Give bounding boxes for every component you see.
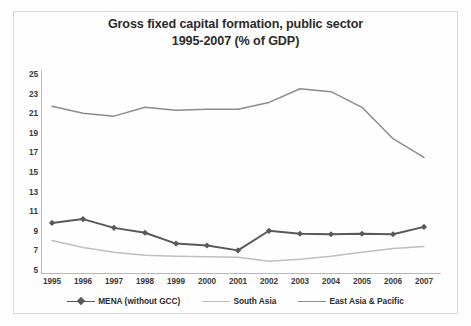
chart-page: Gross fixed capital formation, public se…	[0, 0, 471, 326]
legend-item[interactable]: East Asia & Pacific	[298, 296, 403, 306]
x-axis-tick-label: 2007	[404, 277, 444, 286]
legend-label: MENA (without GCC)	[98, 296, 180, 306]
y-axis-tick-label: 25	[12, 70, 38, 79]
x-axis-labels: 1995199619971998199920002001200220032004…	[0, 277, 471, 291]
y-axis-tick-label: 13	[12, 187, 38, 196]
y-axis-tick-label: 15	[12, 168, 38, 177]
y-axis-tick-label: 19	[12, 128, 38, 137]
y-axis-tick-label: 7	[12, 246, 38, 255]
y-axis-tick-label: 5	[12, 266, 38, 275]
legend-swatch-icon	[202, 297, 230, 306]
legend-item[interactable]: South Asia	[202, 296, 276, 306]
y-axis-tick-label: 21	[12, 109, 38, 118]
chart-legend: MENA (without GCC)South AsiaEast Asia & …	[0, 296, 471, 306]
plot-area	[41, 70, 441, 274]
y-axis-tick-label: 23	[12, 89, 38, 98]
legend-swatch-icon	[67, 297, 95, 306]
legend-label: East Asia & Pacific	[329, 296, 403, 306]
y-axis-tick-label: 9	[12, 226, 38, 235]
chart-title-line1: Gross fixed capital formation, public se…	[108, 17, 363, 31]
chart-title-line2: 1995-2007 (% of GDP)	[0, 33, 471, 50]
y-axis-tick-label: 17	[12, 148, 38, 157]
legend-item[interactable]: MENA (without GCC)	[67, 296, 180, 306]
legend-swatch-icon	[298, 297, 326, 306]
chart-title: Gross fixed capital formation, public se…	[0, 16, 471, 50]
legend-label: South Asia	[233, 296, 276, 306]
y-axis-tick-label: 11	[12, 207, 38, 216]
